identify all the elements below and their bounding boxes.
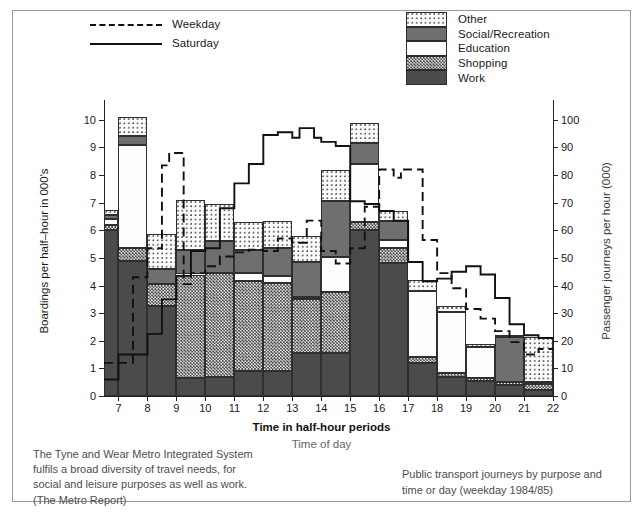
y-tick-label-right: 100 [561, 114, 579, 126]
education-swatch-icon [406, 41, 447, 56]
dashed-line-icon [90, 18, 162, 30]
line-series-weekday [104, 153, 553, 363]
category-legend-item-shopping: Shopping [406, 56, 550, 71]
y-axis-right-title-text: Passenger journeys per hour (000) [600, 162, 612, 340]
x-tick-label: 21 [518, 402, 530, 414]
y-tick-label-right: 10 [561, 362, 573, 374]
x-tick-label: 19 [460, 402, 472, 414]
y-tick-label-right: 40 [561, 280, 573, 292]
y-axis-right-line [553, 100, 554, 396]
y-tick-label-left: 10 [84, 114, 96, 126]
category-legend-label: Other [458, 13, 487, 25]
y-tick-label-right: 80 [561, 169, 573, 181]
y-tick-label-left: 0 [90, 390, 96, 402]
y-tick-label-left: 7 [90, 197, 96, 209]
y-tick-label-right: 50 [561, 252, 573, 264]
x-tick [379, 396, 380, 401]
x-tick-label: 9 [173, 402, 179, 414]
x-tick-label: 17 [402, 402, 414, 414]
plot-area: 0123456789100102030405060708090100789101… [104, 106, 538, 396]
x-tick [263, 396, 264, 401]
x-tick-label: 16 [373, 402, 385, 414]
y-tick-label-right: 70 [561, 197, 573, 209]
category-legend-item-other: Other [406, 12, 550, 27]
x-axis-line [104, 396, 553, 397]
category-legend-label: Shopping [458, 57, 507, 69]
x-tick [205, 396, 206, 401]
note-left-line: fulfils a broad diversity of travel need… [33, 462, 253, 477]
y-axis-left-title-text: Boardings per half–hour in 000's [38, 168, 50, 333]
x-tick [321, 396, 322, 401]
y-tick-left [99, 258, 104, 259]
x-tick [176, 396, 177, 401]
x-tick [466, 396, 467, 401]
y-tick-label-left: 3 [90, 307, 96, 319]
category-legend: OtherSocial/RecreationEducationShoppingW… [406, 12, 550, 85]
y-tick-left [99, 396, 104, 397]
figure-root: WeekdaySaturday OtherSocial/RecreationEd… [0, 0, 643, 513]
x-tick-label: 8 [144, 402, 150, 414]
x-tick-label: 22 [547, 402, 559, 414]
x-axis-title-primary: Time in half-hour periods [0, 421, 643, 433]
category-legend-label: Work [458, 72, 485, 84]
social-swatch-icon [406, 27, 447, 42]
note-right: Public transport journeys by purpose and… [402, 466, 602, 498]
shopping-swatch-icon [406, 56, 447, 71]
x-tick [350, 396, 351, 401]
y-tick-label-left: 6 [90, 224, 96, 236]
x-tick [437, 396, 438, 401]
x-tick [234, 396, 235, 401]
note-left-line: social and leisure purposes as well as w… [33, 477, 253, 492]
x-tick [524, 396, 525, 401]
y-axis-left-title: Boardings per half–hour in 000's [36, 106, 52, 396]
y-tick-label-left: 1 [90, 362, 96, 374]
category-legend-item-work: Work [406, 70, 550, 85]
category-legend-label: Social/Recreation [458, 28, 550, 40]
y-tick-right [553, 286, 558, 287]
work-swatch-icon [406, 70, 447, 85]
y-tick-right [553, 341, 558, 342]
y-tick-label-left: 8 [90, 169, 96, 181]
y-tick-left [99, 313, 104, 314]
day-legend-label: Weekday [172, 18, 220, 30]
x-tick [292, 396, 293, 401]
category-legend-item-social: Social/Recreation [406, 27, 550, 42]
line-series-group [104, 100, 553, 396]
y-tick-left [99, 175, 104, 176]
note-left-line: (The Metro Report) [33, 493, 253, 508]
x-tick-label: 7 [115, 402, 121, 414]
y-tick-left [99, 341, 104, 342]
y-tick-label-right: 0 [561, 390, 567, 402]
y-tick-label-left: 2 [90, 335, 96, 347]
y-tick-left [99, 120, 104, 121]
y-tick-right [553, 203, 558, 204]
x-tick [147, 396, 148, 401]
y-tick-left [99, 147, 104, 148]
day-legend-item-weekday: Weekday [90, 14, 290, 33]
x-tick-label: 20 [489, 402, 501, 414]
x-tick [118, 396, 119, 401]
y-tick-left [99, 368, 104, 369]
y-tick-label-right: 60 [561, 224, 573, 236]
y-axis-right-title: Passenger journeys per hour (000) [598, 106, 614, 396]
y-tick-right [553, 258, 558, 259]
note-right-line: time or day (weekday 1984/85) [402, 482, 602, 498]
category-legend-item-education: Education [406, 41, 550, 56]
y-tick-right [553, 175, 558, 176]
x-tick-label: 10 [199, 402, 211, 414]
x-tick-label: 11 [229, 402, 240, 414]
y-tick-label-right: 30 [561, 307, 573, 319]
y-tick-right [553, 230, 558, 231]
note-left-line: The Tyne and Wear Metro Integrated Syste… [33, 447, 253, 462]
x-tick-label: 13 [286, 402, 298, 414]
day-legend-label: Saturday [172, 37, 219, 49]
solid-line-icon [90, 37, 162, 49]
y-tick-label-right: 90 [561, 141, 573, 153]
category-legend-label: Education [458, 42, 510, 54]
x-tick [408, 396, 409, 401]
x-tick-label: 14 [315, 402, 327, 414]
x-tick-label: 18 [431, 402, 443, 414]
y-tick-right [553, 368, 558, 369]
x-tick-label: 12 [257, 402, 269, 414]
y-tick-left [99, 286, 104, 287]
